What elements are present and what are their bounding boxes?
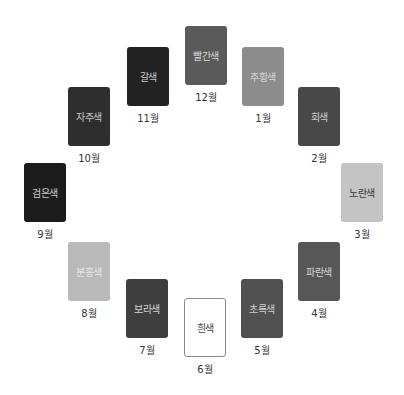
color-card-purple[interactable]: 보라색: [126, 279, 168, 338]
slot-june: 흰색 6월: [183, 298, 227, 376]
slot-february: 회색 2월: [297, 87, 341, 165]
month-label: 7월: [139, 342, 154, 357]
slot-october: 자주색 10월: [67, 87, 111, 165]
month-label: 10월: [78, 150, 100, 165]
month-label: 3월: [354, 226, 369, 241]
card-label: 주황색: [250, 69, 276, 84]
color-card-pink[interactable]: 분홍색: [68, 242, 110, 301]
month-label: 6월: [197, 361, 212, 376]
month-label: 8월: [81, 305, 96, 320]
color-card-yellow[interactable]: 노란색: [341, 163, 383, 222]
card-label: 갈색: [140, 69, 157, 84]
slot-january: 주황색 1월: [241, 47, 285, 125]
color-card-black[interactable]: 검은색: [24, 163, 66, 222]
month-label: 9월: [37, 226, 52, 241]
color-card-blue[interactable]: 파란색: [298, 242, 340, 301]
card-label: 자주색: [76, 109, 102, 124]
slot-december: 빨간색 12월: [184, 26, 228, 104]
slot-july: 보라색 7월: [125, 279, 169, 357]
color-card-gray[interactable]: 회색: [298, 87, 340, 146]
slot-april: 파란색 4월: [297, 242, 341, 320]
month-label: 11월: [137, 110, 159, 125]
color-card-green[interactable]: 초록색: [241, 279, 283, 338]
month-label: 1월: [255, 110, 270, 125]
color-card-white[interactable]: 흰색: [184, 298, 226, 357]
month-label: 12월: [195, 89, 217, 104]
month-label: 4월: [311, 305, 326, 320]
slot-march: 노란색 3월: [340, 163, 384, 241]
slot-august: 분홍색 8월: [67, 242, 111, 320]
card-label: 흰색: [197, 320, 214, 335]
color-card-brown[interactable]: 갈색: [127, 47, 169, 106]
card-label: 초록색: [249, 301, 275, 316]
card-label: 회색: [311, 109, 328, 124]
month-label: 5월: [254, 342, 269, 357]
slot-may: 초록색 5월: [240, 279, 284, 357]
card-label: 분홍색: [76, 264, 102, 279]
card-label: 파란색: [306, 264, 332, 279]
month-label: 2월: [311, 150, 326, 165]
slot-september: 검은색 9월: [23, 163, 67, 241]
color-card-red[interactable]: 빨간색: [185, 26, 227, 85]
card-label: 빨간색: [193, 48, 219, 63]
card-label: 보라색: [134, 301, 160, 316]
card-label: 검은색: [32, 185, 58, 200]
color-card-magenta[interactable]: 자주색: [68, 87, 110, 146]
card-label: 노란색: [349, 185, 375, 200]
slot-november: 갈색 11월: [126, 47, 170, 125]
color-card-orange[interactable]: 주황색: [242, 47, 284, 106]
